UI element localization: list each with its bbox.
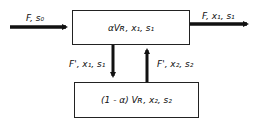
up-stream-label: F', x₂, s₂ xyxy=(157,59,193,69)
down-stream-label: F', x₁, s₁ xyxy=(69,59,105,69)
outlet-label: F, x₁, s₁ xyxy=(202,11,235,21)
top-compartment: αVʀ, x₁, s₁ xyxy=(72,10,190,45)
top-compartment-label: αVʀ, x₁, s₁ xyxy=(108,23,154,33)
inlet-label: F, s₀ xyxy=(26,13,44,23)
bottom-compartment-label: (1 - α) Vʀ, x₂, s₂ xyxy=(101,95,172,105)
bottom-compartment: (1 - α) Vʀ, x₂, s₂ xyxy=(74,82,199,118)
